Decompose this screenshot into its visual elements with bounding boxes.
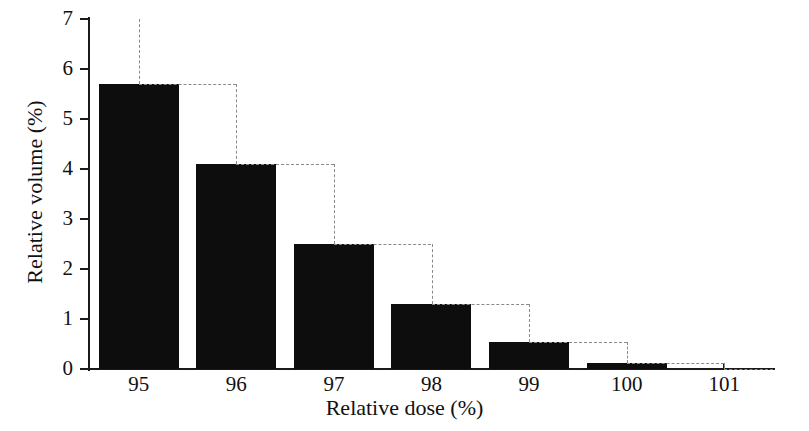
- step-drop-initial: [139, 19, 140, 84]
- y-tick-mark: [80, 18, 89, 20]
- step-level-96: [236, 164, 334, 165]
- x-tick-label: 101: [694, 372, 754, 396]
- bar-99: [489, 342, 569, 370]
- y-tick-label: 7: [33, 8, 73, 29]
- step-drop-97: [334, 164, 335, 244]
- y-tick-mark: [80, 168, 89, 170]
- y-tick-mark: [80, 218, 89, 220]
- step-drop-98: [432, 244, 433, 304]
- y-tick-mark: [80, 268, 89, 270]
- x-tick-label: 98: [402, 372, 462, 396]
- bar-97: [294, 244, 374, 369]
- step-level-101: [724, 369, 773, 370]
- chart-figure: 01234567 9596979899100101 Relative dose …: [0, 0, 809, 431]
- x-axis-title: Relative dose (%): [0, 396, 809, 420]
- x-tick-label: 97: [304, 372, 364, 396]
- y-tick-label: 0: [33, 358, 73, 379]
- step-level-99: [529, 342, 627, 343]
- y-tick-mark: [80, 318, 89, 320]
- x-tick-label: 99: [499, 372, 559, 396]
- x-tick-label: 95: [109, 372, 169, 396]
- bar-95: [99, 84, 179, 369]
- step-drop-96: [236, 84, 237, 164]
- y-axis-title: Relative volume (%): [23, 62, 47, 322]
- bar-96: [196, 164, 276, 369]
- y-tick-mark: [80, 368, 89, 370]
- step-drop-99: [529, 304, 530, 342]
- x-tick-label: 100: [597, 372, 657, 396]
- y-tick-mark: [80, 118, 89, 120]
- step-level-98: [432, 304, 530, 305]
- step-drop-100: [627, 342, 628, 364]
- bar-98: [391, 304, 471, 369]
- step-level-95: [139, 84, 237, 85]
- step-level-100: [627, 363, 725, 364]
- step-level-97: [334, 244, 432, 245]
- x-tick-label: 96: [206, 372, 266, 396]
- y-tick-mark: [80, 68, 89, 70]
